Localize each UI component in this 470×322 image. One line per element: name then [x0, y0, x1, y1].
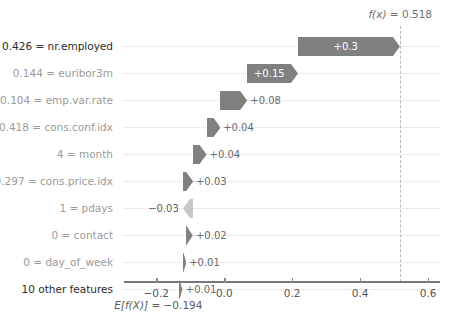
- feature-label: 10 other features: [0, 276, 113, 303]
- waterfall-row: 0.144 = euribor3m+0.15: [0, 60, 470, 87]
- feature-label: 0 = day_of_week: [0, 249, 113, 276]
- feature-label: 0.144 = euribor3m: [0, 60, 113, 87]
- base-value-label: E[f(X)] = −0.194: [114, 299, 202, 311]
- row-connector-line: [124, 127, 440, 128]
- feature-bar: [193, 145, 207, 164]
- bar-value-label: +0.01: [189, 253, 220, 272]
- feature-bar: [207, 118, 221, 137]
- feature-bar: [183, 253, 186, 272]
- bar-value-label: +0.03: [196, 172, 227, 191]
- waterfall-row: 0.426 = nr.employed+0.3: [0, 33, 470, 60]
- waterfall-row: 0 = day_of_week+0.01: [0, 249, 470, 276]
- x-tick-label: 0.2: [284, 287, 301, 299]
- row-connector-line: [124, 262, 440, 263]
- feature-label: 0.418 = cons.conf.idx: [0, 114, 113, 141]
- waterfall-row: 1 = pdays−0.03: [0, 195, 470, 222]
- bar-value-label: +0.02: [196, 226, 227, 245]
- bar-value-label: +0.3: [298, 37, 393, 56]
- shap-waterfall-plot: f(x) = 0.518 0.426 = nr.employed+0.30.14…: [0, 0, 470, 322]
- bar-value-label: +0.15: [247, 64, 291, 83]
- bar-value-label: +0.08: [250, 91, 281, 110]
- output-value-label: f(x) = 0.518: [368, 8, 432, 20]
- row-connector-line: [124, 235, 440, 236]
- bar-value-label: +0.01: [186, 280, 217, 299]
- feature-bar: [220, 91, 247, 110]
- row-connector-line: [124, 154, 440, 155]
- bar-value-label: −0.03: [135, 199, 179, 218]
- x-tick-mark: [292, 278, 293, 283]
- x-axis-line: [124, 281, 440, 283]
- feature-label: 0 = contact: [0, 222, 113, 249]
- row-connector-line: [124, 181, 440, 182]
- x-tick-label: 0.0: [216, 287, 233, 299]
- row-connector-line: [124, 289, 440, 290]
- x-tick-mark: [360, 278, 361, 283]
- feature-bar: [186, 226, 193, 245]
- waterfall-row: 0.297 = cons.price.idx+0.03: [0, 168, 470, 195]
- x-tick-mark: [224, 278, 225, 283]
- feature-bar: [183, 199, 193, 218]
- feature-label: 0.426 = nr.employed: [0, 33, 113, 60]
- feature-label: 0.104 = emp.var.rate: [0, 87, 113, 114]
- feature-label: 0.297 = cons.price.idx: [0, 168, 113, 195]
- feature-label: 4 = month: [0, 141, 113, 168]
- bar-value-label: +0.04: [223, 118, 254, 137]
- x-tick-mark: [156, 278, 157, 283]
- waterfall-row: 0 = contact+0.02: [0, 222, 470, 249]
- bar-value-label: +0.04: [210, 145, 241, 164]
- x-tick-label: −0.2: [144, 287, 170, 299]
- waterfall-row: 0.104 = emp.var.rate+0.08: [0, 87, 470, 114]
- waterfall-row: 4 = month+0.04: [0, 141, 470, 168]
- x-tick-label: 0.6: [420, 287, 437, 299]
- row-connector-line: [124, 100, 440, 101]
- x-tick-label: 0.4: [352, 287, 369, 299]
- feature-bar: [179, 280, 182, 299]
- feature-label: 1 = pdays: [0, 195, 113, 222]
- x-tick-mark: [428, 278, 429, 283]
- feature-bar: [183, 172, 193, 191]
- waterfall-row: 0.418 = cons.conf.idx+0.04: [0, 114, 470, 141]
